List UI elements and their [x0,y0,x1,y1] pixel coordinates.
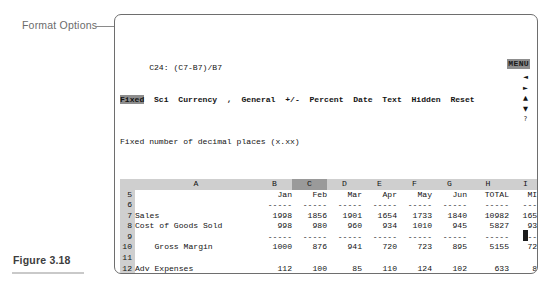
cell-F5[interactable]: May [397,190,432,201]
cell-C9[interactable]: ----- [292,232,327,243]
column-header-F[interactable]: F [397,179,432,190]
format-menu-item-percent[interactable]: Percent [309,95,343,104]
cell-G10[interactable]: 895 [432,242,467,253]
cell-D6[interactable]: ----- [327,200,362,211]
cell-E5[interactable]: Apr [362,190,397,201]
cell-F6[interactable]: ----- [397,200,432,211]
cell-D12[interactable]: 85 [327,264,362,274]
table-row[interactable]: 5JanFebMarAprMayJunTOTALMINMAX [120,190,537,201]
cell-B10[interactable]: 1000 [257,242,292,253]
cell-C6[interactable]: ----- [292,200,327,211]
cell-B7[interactable]: 1998 [257,211,292,222]
cell-H5[interactable]: TOTAL [467,190,509,201]
cell-B5[interactable]: Jan [257,190,292,201]
cell-G12[interactable]: 102 [432,264,467,274]
cell-F12[interactable]: 124 [397,264,432,274]
cell-B9[interactable]: ----- [257,232,292,243]
navigation-arrow-strip[interactable]: ◄►▲▼? [523,72,528,125]
nav-arrow-direction-icon[interactable]: ◄ [523,72,528,83]
cell-D10[interactable]: 941 [327,242,362,253]
row-label-cell[interactable]: Adv Expenses [135,264,257,274]
row-label-cell[interactable]: Cost of Goods Sold [135,221,257,232]
cell-B6[interactable]: ----- [257,200,292,211]
table-row[interactable]: 8Cost of Goods Sold998980960934101094558… [120,221,537,232]
column-header-E[interactable]: E [362,179,397,190]
cell-G8[interactable]: 945 [432,221,467,232]
cell-H9[interactable]: ----- [467,232,509,243]
cell-E9[interactable]: ----- [362,232,397,243]
format-menu-item-[interactable]: +/- [285,95,300,104]
cell-C10[interactable]: 876 [292,242,327,253]
row-label-cell[interactable]: Sales [135,211,257,222]
cell-I5[interactable]: MIN [509,190,538,201]
table-row[interactable]: 12Adv Expenses1121008511012410263385124 [120,264,537,274]
cell-E6[interactable]: ----- [362,200,397,211]
cell-C12[interactable]: 100 [292,264,327,274]
table-row[interactable]: 6---------------------------------------… [120,200,537,211]
row-header-7[interactable]: 7 [120,211,135,222]
cell-H7[interactable]: 10982 [467,211,509,222]
cell-D7[interactable]: 1901 [327,211,362,222]
cell-I12[interactable]: 85 [509,264,538,274]
row-header-6[interactable]: 6 [120,200,135,211]
cell-H8[interactable]: 5827 [467,221,509,232]
cell-H10[interactable]: 5155 [467,242,509,253]
row-header-10[interactable]: 10 [120,242,135,253]
column-header-C[interactable]: C [292,179,327,190]
spreadsheet-grid[interactable]: ABCDEFGHIJ5JanFebMarAprMayJunTOTALMINMAX… [120,179,537,274]
cell-D5[interactable]: Mar [327,190,362,201]
format-menu-item-currency[interactable]: Currency [178,95,217,104]
column-header-A[interactable]: A [135,179,257,190]
nav-arrow-help-icon[interactable]: ? [523,114,528,125]
row-label-cell[interactable]: Gross Margin [135,242,257,253]
column-header-I[interactable]: I [509,179,538,190]
format-menu-item-sci[interactable]: Sci [154,95,169,104]
cell-G9[interactable]: ----- [432,232,467,243]
column-header-H[interactable]: H [467,179,509,190]
row-header-11[interactable]: 11 [120,253,135,264]
cell-G5[interactable]: Jun [432,190,467,201]
cell-F10[interactable]: 723 [397,242,432,253]
cell-F8[interactable]: 1010 [397,221,432,232]
cell-E12[interactable]: 110 [362,264,397,274]
cell-I7[interactable]: 1654 [509,211,538,222]
format-menu-item-hidden[interactable]: Hidden [412,95,441,104]
table-row[interactable]: 9---------------------------------------… [120,232,537,243]
format-menu-item-general[interactable]: General [241,95,275,104]
column-header-B[interactable]: B [257,179,292,190]
format-menu-bar[interactable]: Fixed Sci Currency , General +/- Percent… [120,95,537,106]
cell-F9[interactable]: ----- [397,232,432,243]
cell-I6[interactable]: ---- [509,200,538,211]
table-row[interactable]: 7Sales1998185619011654173318401098216541… [120,211,537,222]
nav-arrow-direction-icon[interactable]: ▲ [523,93,528,104]
cell-C5[interactable]: Feb [292,190,327,201]
cell-E7[interactable]: 1654 [362,211,397,222]
cell-H6[interactable]: ----- [467,200,509,211]
cell-D9[interactable]: ----- [327,232,362,243]
nav-arrow-direction-icon[interactable]: ▼ [523,104,528,115]
row-header-9[interactable]: 9 [120,232,135,243]
cell-C8[interactable]: 980 [292,221,327,232]
format-menu-item-date[interactable]: Date [353,95,372,104]
cell-D8[interactable]: 960 [327,221,362,232]
format-menu-item-reset[interactable]: Reset [450,95,474,104]
row-header-5[interactable]: 5 [120,190,135,201]
row-header-12[interactable]: 12 [120,264,135,274]
cell-C7[interactable]: 1856 [292,211,327,222]
cell-F7[interactable]: 1733 [397,211,432,222]
cell-G7[interactable]: 1840 [432,211,467,222]
cell-E8[interactable]: 934 [362,221,397,232]
format-menu-item-fixed[interactable]: Fixed [120,95,144,104]
cell-I10[interactable]: 720 [509,242,538,253]
table-row[interactable]: 10 Gross Margin1000876941720723895515572… [120,242,537,253]
column-header-D[interactable]: D [327,179,362,190]
format-menu-item-text[interactable]: Text [382,95,401,104]
cell-H12[interactable]: 633 [467,264,509,274]
cell-B12[interactable]: 112 [257,264,292,274]
cell-E10[interactable]: 720 [362,242,397,253]
nav-arrow-direction-icon[interactable]: ► [523,83,528,94]
cell-B8[interactable]: 998 [257,221,292,232]
column-header-G[interactable]: G [432,179,467,190]
table-row[interactable]: 11 [120,253,537,264]
cell-G6[interactable]: ----- [432,200,467,211]
